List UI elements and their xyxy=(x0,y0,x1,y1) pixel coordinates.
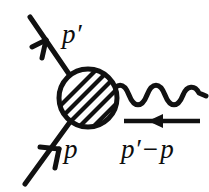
label-outgoing-momentum: p′ xyxy=(62,21,82,48)
label-momentum-transfer-minus: − xyxy=(141,134,160,164)
outgoing-arrowhead xyxy=(32,40,46,58)
diagram-canvas xyxy=(0,0,209,192)
label-momentum-transfer: p′−p xyxy=(121,136,174,163)
feynman-diagram: p′ p p′−p xyxy=(0,0,209,192)
label-momentum-transfer-p-prime: p′ xyxy=(121,134,141,164)
label-incoming-momentum: p xyxy=(64,136,78,163)
photon-wavy-line xyxy=(112,85,206,105)
label-momentum-transfer-p: p xyxy=(160,134,174,164)
momentum-transfer-arrow xyxy=(124,114,200,128)
